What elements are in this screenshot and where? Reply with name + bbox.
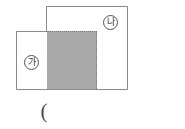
overlap-shaded-region [47,31,97,89]
label-ga: 가 [24,55,39,70]
geometry-figure-canvas: 나 가 ( [0,0,185,129]
caption-open-paren: ( [37,99,51,123]
label-na: 나 [103,15,118,30]
